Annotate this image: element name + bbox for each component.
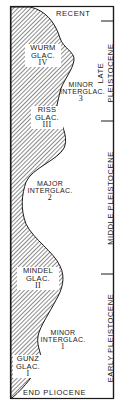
recent-label: RECENT	[56, 9, 90, 18]
stage-gunz-glaciation: GUNZ GLAC. I	[13, 355, 43, 378]
glacial-stages-diagram: RECENT END PLIOCENE WURM GLAC. IV MINOR …	[0, 0, 126, 409]
stage-mindel-glaciation: MINDEL GLAC. II	[17, 267, 59, 290]
end-pliocene-label: END PLIOCENE	[23, 388, 86, 397]
period-early-pleistocene: EARLY PLEISTOCENE	[106, 285, 116, 391]
period-middle-pleistocene: MIDDLE PLEISTOCENE	[106, 143, 116, 253]
stage-minor-interglacial-1: MINOR INTERGLAC. 1	[40, 329, 86, 351]
period-late-pleistocene: LATE PLEISTOCENE	[96, 33, 116, 113]
stage-riss-glaciation: RISS GLAC. III	[31, 106, 63, 129]
stage-major-interglacial-2: MAJOR INTERGLAC. 2	[26, 180, 74, 202]
stage-wurm-glaciation: WURM GLAC. IV	[25, 44, 61, 67]
